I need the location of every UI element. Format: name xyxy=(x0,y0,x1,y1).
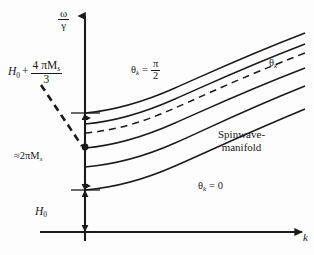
curve-intermediate-3 xyxy=(85,86,305,167)
theta-curve-label: θk xyxy=(269,57,277,69)
band-gap-value-sub: s xyxy=(40,155,43,162)
upper-field-label: H0+ 4 πMs 3 xyxy=(8,60,62,86)
x-axis-label: k xyxy=(303,232,308,244)
manifold-label-line1: Spinwave- xyxy=(218,128,265,141)
manifold-label: Spinwave- manifold xyxy=(218,128,265,154)
curve-theta-pi-over-2 xyxy=(85,33,305,113)
upper-field-denominator: 3 xyxy=(31,74,63,86)
band-gap-value: 2πM xyxy=(20,150,40,161)
base-field-symbol-sub: 0 xyxy=(43,210,47,219)
upper-field-numerator-sub: s xyxy=(57,64,60,73)
y-axis-denominator: γ xyxy=(58,20,69,31)
spinwave-dispersion-figure: ω γ H0+ 4 πMs 3 ≈2πMs H0 θk= π 2 θk θk= … xyxy=(0,0,314,255)
theta-upper-equals: = xyxy=(142,64,148,75)
gap-measure-arrow xyxy=(82,113,89,191)
theta-lower-symbol-sub: k xyxy=(203,185,206,192)
upper-field-numerator: 4 πMs xyxy=(31,60,63,74)
y-axis-label: ω γ xyxy=(58,8,69,31)
base-field-label: H0 xyxy=(35,205,47,219)
theta-upper-symbol-sub: k xyxy=(136,69,139,76)
curve-intermediate-1 xyxy=(85,44,305,124)
leader-line xyxy=(41,85,82,146)
theta-lower-label: θk= 0 xyxy=(198,180,223,192)
theta-upper-label: θk= π 2 xyxy=(131,59,160,81)
theta-curve-symbol-sub: k xyxy=(274,62,277,69)
manifold-label-line2: manifold xyxy=(218,141,265,154)
theta-upper-numerator: π xyxy=(151,59,160,71)
theta-lower-value: = 0 xyxy=(209,180,223,191)
upper-field-plus: + xyxy=(22,65,29,77)
curve-theta-zero xyxy=(85,109,305,190)
upper-field-lead-sub: 0 xyxy=(16,71,20,80)
band-gap-label: ≈2πMs xyxy=(14,150,42,162)
theta-upper-denominator: 2 xyxy=(151,71,160,82)
base-field-arrow xyxy=(82,190,89,232)
